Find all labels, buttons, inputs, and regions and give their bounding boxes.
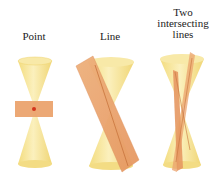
lower-cone-base (18, 160, 52, 168)
conic-sections-diagram (0, 0, 219, 177)
upper-cone (160, 59, 204, 110)
point-marker (32, 107, 36, 111)
two-lines-panel (160, 52, 204, 172)
line-panel (76, 56, 139, 172)
upper-cone-rim (18, 57, 52, 65)
point-panel (15, 57, 53, 168)
lower-cone (18, 109, 52, 164)
upper-cone-rim (160, 54, 204, 64)
